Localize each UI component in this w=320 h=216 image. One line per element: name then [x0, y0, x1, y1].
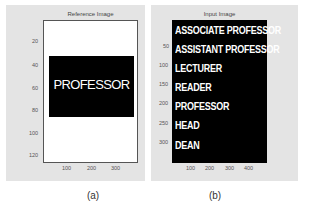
figure-a-ytick: 40: [32, 62, 38, 68]
figure-b-xtick: 100: [186, 165, 195, 171]
figure-a-axes: PROFESSOR: [43, 20, 138, 163]
figure-b-line: LECTURER: [175, 62, 222, 74]
figure-a-xtick: 300: [111, 165, 120, 171]
figure-b-ytick: 50: [163, 43, 169, 49]
figure-b-ytick: 150: [159, 81, 168, 87]
figure-b-ytick: 250: [159, 120, 168, 126]
figure-b-line: ASSOCIATE PROFESSOR: [175, 24, 281, 36]
figure-a-image-text: PROFESSOR: [49, 77, 134, 92]
figure-b-line: READER: [175, 81, 211, 93]
figure-b-xtick: 400: [244, 165, 253, 171]
figure-a-title: Reference Image: [43, 11, 138, 17]
figure-b-line: DEAN: [175, 139, 199, 151]
figure-b-xtick: 300: [225, 165, 234, 171]
figure-b-line: PROFESSOR: [175, 100, 229, 112]
figure-a-ytick: 20: [32, 38, 38, 44]
figure-b-line: ASSISTANT PROFESSOR: [175, 43, 280, 55]
figure-b-title: Input Image: [172, 11, 267, 17]
figure-b-ytick: 300: [159, 139, 168, 145]
figure-a-ytick: 80: [32, 107, 38, 113]
figure-a-ytick: 60: [32, 85, 38, 91]
figure-a-text-box: PROFESSOR: [49, 56, 134, 117]
figure-b-axes: ASSOCIATE PROFESSOR ASSISTANT PROFESSOR …: [172, 20, 267, 163]
figure-b-line: HEAD: [175, 119, 199, 131]
figure-a-xtick: 200: [87, 165, 96, 171]
figure-b-caption: (b): [195, 190, 235, 201]
figure-b-xtick: 200: [205, 165, 214, 171]
figure-a-caption: (a): [73, 190, 113, 201]
figure-b-ytick: 100: [159, 62, 168, 68]
figure-a-xtick: 100: [62, 165, 71, 171]
figure-b-ytick: 200: [159, 100, 168, 106]
figure-a-ytick: 120: [29, 152, 38, 158]
figure-a-ytick: 100: [29, 130, 38, 136]
